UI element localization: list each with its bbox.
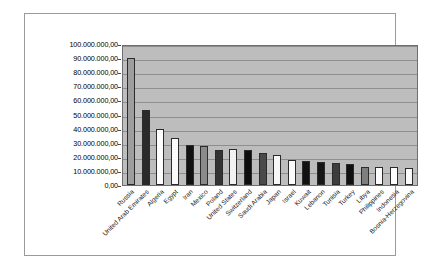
y-axis-tick-mark: [118, 158, 121, 159]
y-axis-tick-label: 90.000.000,00: [73, 55, 118, 63]
bar: [317, 162, 325, 185]
bar: [259, 153, 267, 185]
bar: [229, 149, 237, 185]
bar: [375, 167, 383, 185]
x-axis-tick-label-text: Japan: [265, 188, 283, 206]
plot-area: [122, 45, 418, 186]
bar: [156, 129, 164, 185]
bar: [244, 150, 252, 185]
y-axis-tick-label: 10.000.000,00: [73, 168, 118, 176]
bar: [273, 155, 281, 185]
y-axis-tick-mark: [118, 101, 121, 102]
y-axis-tick-label: 70.000.000,00: [73, 83, 118, 91]
bar: [390, 167, 398, 185]
y-axis-tick-mark: [118, 172, 121, 173]
y-axis-tick-mark: [118, 45, 121, 46]
y-axis-tick-mark: [118, 87, 121, 88]
y-axis-tick-mark: [118, 116, 121, 117]
y-axis-tick-label: 50.000.000,00: [73, 112, 118, 120]
y-axis: 100.000.000,0090.000.000,0080.000.000,00…: [49, 40, 121, 192]
y-axis-tick-mark: [118, 59, 121, 60]
x-axis-tick-label-text: Egypt: [163, 188, 180, 205]
y-axis-tick-label: 30.000.000,00: [73, 140, 118, 148]
bar: [361, 167, 369, 185]
y-axis-tick-mark: [118, 186, 121, 187]
y-axis-tick-mark: [118, 73, 121, 74]
bar: [186, 145, 194, 185]
bar: [346, 164, 354, 185]
bar-series: [123, 46, 417, 185]
y-axis-tick-label: 40.000.000,00: [73, 126, 118, 134]
x-axis-tick-label: Japan: [265, 188, 283, 206]
bar: [215, 150, 223, 185]
chart-container: 100.000.000,0090.000.000,0080.000.000,00…: [0, 0, 421, 273]
x-axis: RussiaUnited Arab EmiratesAlgeriaEgyptIr…: [122, 188, 421, 268]
chart-frame: 100.000.000,0090.000.000,0080.000.000,00…: [24, 13, 396, 256]
y-axis-tick-label: 0,00: [104, 182, 118, 190]
bar: [142, 110, 150, 185]
bar: [127, 58, 135, 185]
y-axis-tick-label: 100.000.000,00: [69, 41, 118, 49]
y-axis-tick-label: 20.000.000,00: [73, 154, 118, 162]
bar: [405, 168, 413, 185]
bar: [288, 160, 296, 185]
x-axis-tick-label: Egypt: [163, 188, 180, 205]
y-axis-tick-mark: [118, 144, 121, 145]
y-axis-tick-mark: [118, 130, 121, 131]
bar: [332, 163, 340, 185]
bar: [302, 161, 310, 185]
bar: [171, 138, 179, 185]
y-axis-tick-label: 60.000.000,00: [73, 97, 118, 105]
bar: [200, 146, 208, 185]
y-axis-tick-label: 80.000.000,00: [73, 69, 118, 77]
